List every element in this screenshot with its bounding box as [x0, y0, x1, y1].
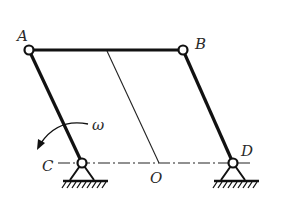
link-AC: [29, 50, 82, 163]
label-A: A: [15, 27, 28, 45]
linkage-diagram: A B C D O ω: [0, 0, 283, 214]
line-to-O: [107, 51, 159, 163]
label-B: B: [194, 35, 206, 53]
label-D: D: [240, 142, 253, 160]
angular-velocity-arrow-icon: [37, 123, 88, 150]
joint-D: [229, 159, 238, 168]
label-O: O: [150, 169, 162, 187]
joint-B: [179, 46, 188, 55]
label-C: C: [42, 157, 54, 175]
joint-A: [25, 46, 34, 55]
link-BD: [183, 50, 233, 163]
label-omega: ω: [92, 116, 104, 134]
joint-C: [78, 159, 87, 168]
